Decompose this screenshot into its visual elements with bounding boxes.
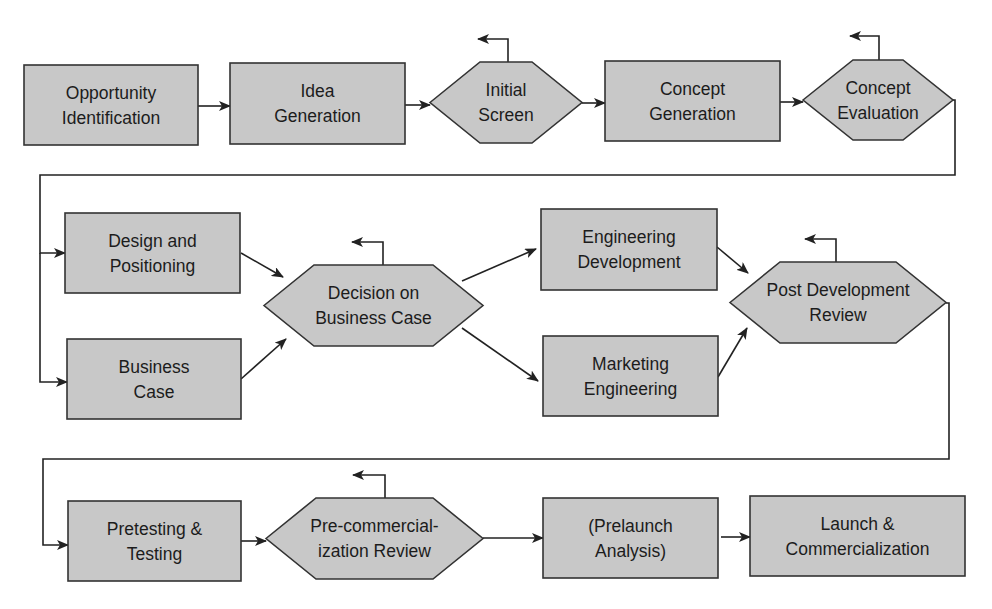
process-box — [605, 61, 780, 141]
node-label: Initial — [486, 80, 527, 100]
exit-arrow-icon — [352, 242, 383, 265]
node-label: Case — [134, 382, 175, 402]
node-label: Business — [118, 357, 189, 377]
node-label: Development — [577, 252, 680, 272]
edge-business-case-to-decision-on-business-case — [241, 339, 286, 379]
node-design-and-positioning: Design andPositioning — [65, 213, 240, 293]
edge-decision-on-business-case-to-marketing-engineering — [462, 328, 538, 381]
node-business-case: BusinessCase — [67, 339, 241, 419]
decision-hexagon — [803, 60, 953, 140]
node-idea-generation: IdeaGeneration — [230, 63, 405, 144]
process-box — [750, 496, 965, 576]
node-decision-on-business-case: Decision onBusiness Case — [264, 265, 483, 346]
process-box — [24, 65, 198, 145]
process-box — [65, 213, 240, 293]
node-opportunity-identification: OpportunityIdentification — [24, 65, 198, 145]
node-post-development-review: Post DevelopmentReview — [730, 262, 946, 343]
node-label: Business Case — [315, 308, 432, 328]
edge-design-and-positioning-to-decision-on-business-case — [241, 253, 283, 277]
exit-arrow-icon — [805, 239, 836, 262]
process-box — [543, 336, 718, 416]
exit-arrow-icon — [353, 475, 385, 498]
node-label: Review — [809, 305, 867, 325]
exit-arrow-icon — [850, 36, 879, 60]
node-label: Idea — [300, 81, 334, 101]
edge-marketing-engineering-to-post-development-review — [718, 328, 747, 377]
edge-engineering-development-to-post-development-review — [717, 247, 748, 273]
decision-hexagon — [264, 265, 483, 346]
product-development-flowchart: OpportunityIdentificationIdeaGenerationI… — [0, 0, 992, 609]
node-label: Concept — [845, 78, 910, 98]
node-pretesting-and-testing: Pretesting &Testing — [68, 501, 241, 581]
node-label: Marketing — [592, 354, 669, 374]
node-label: Testing — [127, 544, 182, 564]
node-label: Screen — [478, 105, 533, 125]
node-concept-generation: ConceptGeneration — [605, 61, 780, 141]
nodes-layer: OpportunityIdentificationIdeaGenerationI… — [24, 60, 965, 581]
decision-hexagon — [266, 498, 483, 579]
decision-hexagon — [430, 62, 582, 143]
edge-decision-on-business-case-to-engineering-development — [462, 249, 536, 281]
node-prelaunch-analysis: (PrelaunchAnalysis) — [543, 498, 718, 578]
node-label: Commercialization — [786, 539, 930, 559]
node-label: Decision on — [328, 283, 419, 303]
node-label: Opportunity — [66, 83, 157, 103]
process-box — [67, 339, 241, 419]
exit-arrow-icon — [478, 39, 508, 62]
edge-concept-evaluation-to-business-case — [40, 253, 67, 382]
node-label: Concept — [660, 79, 725, 99]
node-pre-commercialization-review: Pre-commercial-ization Review — [266, 498, 483, 579]
node-concept-evaluation: ConceptEvaluation — [803, 60, 953, 140]
node-label: Positioning — [110, 256, 196, 276]
node-label: Pre-commercial- — [310, 516, 439, 536]
node-label: Generation — [649, 104, 736, 124]
node-launch-and-commercialization: Launch &Commercialization — [750, 496, 965, 576]
node-label: Engineering — [582, 227, 675, 247]
node-label: Analysis) — [595, 541, 666, 561]
node-label: Evaluation — [837, 103, 919, 123]
process-box — [543, 498, 718, 578]
node-label: ization Review — [318, 541, 431, 561]
node-label: (Prelaunch — [588, 516, 673, 536]
node-label: Design and — [108, 231, 197, 251]
process-box — [541, 209, 717, 290]
node-marketing-engineering: MarketingEngineering — [543, 336, 718, 416]
node-label: Pretesting & — [107, 519, 203, 539]
node-label: Post Development — [767, 280, 910, 300]
process-box — [230, 63, 405, 144]
node-initial-screen: InitialScreen — [430, 62, 582, 143]
node-label: Generation — [274, 106, 361, 126]
node-label: Engineering — [584, 379, 677, 399]
node-label: Identification — [62, 108, 160, 128]
node-engineering-development: EngineeringDevelopment — [541, 209, 717, 290]
decision-hexagon — [730, 262, 946, 343]
process-box — [68, 501, 241, 581]
node-label: Launch & — [821, 514, 895, 534]
